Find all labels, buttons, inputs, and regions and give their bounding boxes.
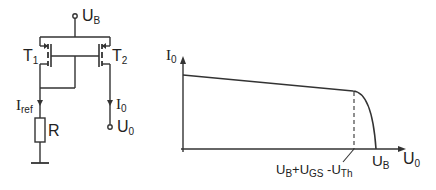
- transistor-t2: [99, 43, 110, 124]
- t2-label: T2: [112, 48, 127, 66]
- i0-curve: [183, 75, 376, 149]
- resistor-label: R: [48, 123, 60, 139]
- i0-label: I0: [116, 96, 127, 114]
- current-mirror-diagram: [0, 0, 436, 190]
- supply-label: UB: [82, 8, 100, 26]
- x-axis-label: U0: [403, 151, 420, 169]
- u0-output-label: U0: [117, 119, 134, 137]
- resistor-r: [35, 118, 45, 142]
- iref-label: Iref: [16, 97, 33, 115]
- t1-label: T1: [23, 48, 38, 66]
- y-axis-label: I0: [166, 47, 177, 65]
- ub-marker-label: UB: [372, 153, 390, 171]
- output-terminal: [108, 125, 112, 129]
- transistor-t1: [40, 43, 51, 88]
- y-axis-arrow-icon: [180, 56, 186, 64]
- knee-voltage-label: UB+UGS -UTh: [276, 163, 353, 179]
- output-characteristic-graph: [181, 62, 398, 162]
- iref-arrow-icon: [37, 100, 43, 106]
- supply-terminal: [73, 14, 77, 18]
- i0-arrow-icon: [107, 100, 113, 106]
